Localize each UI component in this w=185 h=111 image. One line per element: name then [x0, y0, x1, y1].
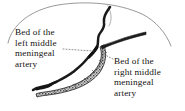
left-label-line-4: artery: [15, 59, 57, 70]
dotted-leader-left: [63, 49, 93, 51]
left-label-line-1: Bed of the: [15, 27, 57, 38]
left-middle-meningeal-artery-label: Bed of the left middle meningeal artery: [15, 27, 57, 69]
right-label-line-1: Bed of the: [114, 56, 161, 67]
left-label-line-2: left middle: [15, 38, 57, 49]
right-label-line-3: meningeal: [114, 77, 161, 88]
dark-tapered-branch-upper-right: [101, 32, 146, 49]
right-label-line-2: right middle: [114, 67, 161, 78]
left-label-line-3: meningeal: [15, 48, 57, 59]
right-middle-meningeal-artery-label: Bed of the right middle meningeal artery: [114, 56, 161, 98]
anatomical-figure: Bed of the left middle meningeal artery …: [0, 0, 185, 111]
right-label-line-4: artery: [114, 88, 161, 99]
